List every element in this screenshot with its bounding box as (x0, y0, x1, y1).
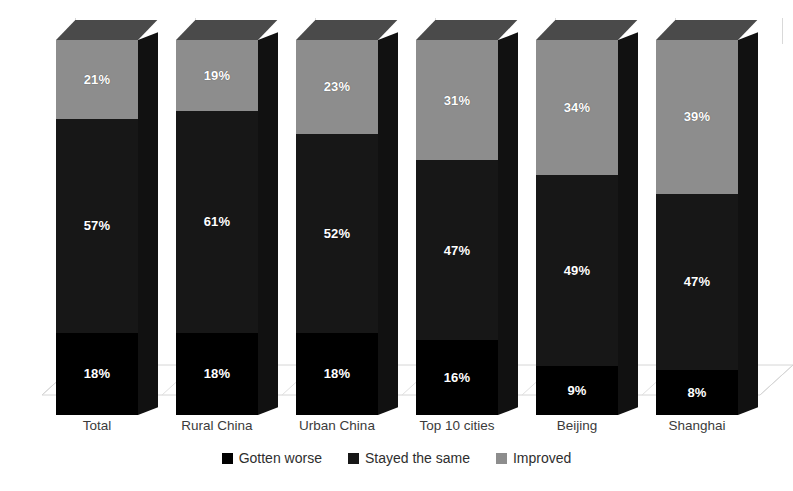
bar-total[interactable]: 21% 57% 18% (56, 40, 138, 415)
segment-gotten-worse[interactable]: 16% (416, 340, 498, 415)
bar-urban-china[interactable]: 23% 52% 18% (296, 40, 378, 415)
segment-gotten-worse[interactable]: 18% (56, 333, 138, 416)
segment-value-label: 18% (84, 366, 111, 381)
segment-value-label: 39% (684, 109, 711, 124)
bar-top-10-cities[interactable]: 31% 47% 16% (416, 40, 498, 415)
legend-swatch-icon (496, 453, 507, 464)
gridline-tick (782, 18, 783, 44)
segment-value-label: 34% (564, 100, 591, 115)
bar-rural-china[interactable]: 19% 61% 18% (176, 40, 258, 415)
legend-label: Stayed the same (365, 450, 470, 466)
segment-value-label: 52% (324, 226, 351, 241)
segment-value-label: 57% (84, 218, 111, 233)
bar-stack: 23% 52% 18% (296, 40, 378, 415)
legend-swatch-icon (348, 453, 359, 464)
plot-area: 21% 57% 18% 19% 61% (0, 10, 793, 415)
legend-item-gotten-worse[interactable]: Gotten worse (222, 450, 322, 466)
category-axis: Total Rural China Urban China Top 10 cit… (0, 418, 793, 442)
segment-improved[interactable]: 19% (176, 40, 258, 111)
bar-stack: 19% 61% 18% (176, 40, 258, 415)
bar-shanghai[interactable]: 39% 47% 8% (656, 40, 738, 415)
segment-stayed-the-same[interactable]: 57% (56, 119, 138, 333)
axis-label-top-10-cities: Top 10 cities (407, 418, 507, 433)
segment-value-label: 31% (444, 93, 471, 108)
segment-value-label: 47% (684, 274, 711, 289)
segment-stayed-the-same[interactable]: 52% (296, 134, 378, 333)
legend-swatch-icon (222, 453, 233, 464)
chart-title-cropped (0, 0, 793, 10)
legend-item-stayed-the-same[interactable]: Stayed the same (348, 450, 470, 466)
segment-value-label: 18% (204, 366, 231, 381)
bar-side-face (738, 32, 758, 415)
segment-improved[interactable]: 23% (296, 40, 378, 134)
bar-stack: 34% 49% 9% (536, 40, 618, 415)
bar-side-face (258, 32, 278, 415)
segment-gotten-worse[interactable]: 8% (656, 370, 738, 415)
segment-stayed-the-same[interactable]: 47% (656, 194, 738, 370)
bar-top-face (536, 20, 637, 40)
bar-beijing[interactable]: 34% 49% 9% (536, 40, 618, 415)
segment-value-label: 47% (444, 243, 471, 258)
axis-label-shanghai: Shanghai (647, 418, 747, 433)
segment-value-label: 18% (324, 366, 351, 381)
segment-value-label: 23% (324, 79, 351, 94)
segment-value-label: 9% (567, 383, 586, 398)
segment-improved[interactable]: 21% (56, 40, 138, 119)
chart-legend: Gotten worse Stayed the same Improved (0, 450, 793, 466)
stacked-bar-chart: 21% 57% 18% 19% 61% (0, 0, 793, 491)
segment-value-label: 61% (204, 214, 231, 229)
bar-top-face (296, 20, 397, 40)
segment-value-label: 19% (204, 68, 231, 83)
legend-label: Gotten worse (239, 450, 322, 466)
bar-side-face (618, 32, 638, 415)
bar-top-face (176, 20, 277, 40)
segment-gotten-worse[interactable]: 18% (296, 333, 378, 416)
segment-improved[interactable]: 39% (656, 40, 738, 194)
segment-value-label: 16% (444, 370, 471, 385)
axis-label-rural-china: Rural China (167, 418, 267, 433)
bar-top-face (416, 20, 517, 40)
segment-value-label: 8% (687, 385, 706, 400)
legend-label: Improved (513, 450, 571, 466)
bar-side-face (498, 32, 518, 415)
segment-stayed-the-same[interactable]: 49% (536, 175, 618, 366)
bar-top-face (56, 20, 157, 40)
bar-stack: 21% 57% 18% (56, 40, 138, 415)
axis-label-beijing: Beijing (527, 418, 627, 433)
bar-side-face (138, 32, 158, 415)
bar-side-face (378, 32, 398, 415)
segment-gotten-worse[interactable]: 18% (176, 333, 258, 416)
axis-label-total: Total (47, 418, 147, 433)
segment-improved[interactable]: 34% (536, 40, 618, 175)
bar-stack: 31% 47% 16% (416, 40, 498, 415)
axis-label-urban-china: Urban China (287, 418, 387, 433)
bar-top-face (656, 20, 757, 40)
segment-stayed-the-same[interactable]: 61% (176, 111, 258, 332)
segment-stayed-the-same[interactable]: 47% (416, 160, 498, 340)
segment-value-label: 21% (84, 72, 111, 87)
segment-value-label: 49% (564, 263, 591, 278)
bar-stack: 39% 47% 8% (656, 40, 738, 415)
segment-improved[interactable]: 31% (416, 40, 498, 160)
segment-gotten-worse[interactable]: 9% (536, 366, 618, 415)
legend-item-improved[interactable]: Improved (496, 450, 571, 466)
